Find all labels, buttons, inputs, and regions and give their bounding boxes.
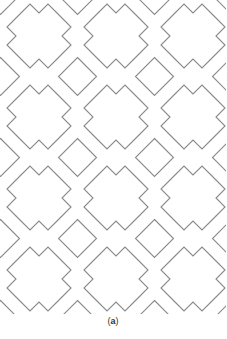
- cross-tile: [7, 85, 71, 149]
- diamond-tile: [136, 0, 174, 15]
- diamond-tile: [0, 220, 20, 258]
- diamond-tile: [213, 301, 227, 315]
- tiles-group: [0, 0, 226, 314]
- tessellation-pattern: [0, 0, 226, 314]
- diamond-tile: [213, 139, 227, 177]
- diamond-tile: [213, 0, 227, 15]
- cross-tile: [161, 85, 225, 149]
- figure-caption: (a): [0, 316, 226, 326]
- diamond-tile: [0, 139, 20, 177]
- diamond-tile: [136, 58, 174, 96]
- diamond-tile: [213, 58, 227, 96]
- caption-close-paren: ): [116, 316, 119, 326]
- cross-tile: [161, 166, 225, 230]
- diamond-tile: [59, 220, 97, 258]
- cross-tile: [84, 247, 148, 311]
- diamond-tile: [59, 58, 97, 96]
- diamond-tile: [213, 220, 227, 258]
- cross-tile: [7, 4, 71, 68]
- cross-tile: [7, 166, 71, 230]
- diamond-tile: [59, 0, 97, 15]
- diamond-tile: [0, 0, 20, 15]
- diamond-tile: [0, 58, 20, 96]
- cross-tile: [84, 85, 148, 149]
- diamond-tile: [136, 139, 174, 177]
- diamond-tile: [0, 301, 20, 315]
- diamond-tile: [59, 301, 97, 315]
- diamond-tile: [136, 301, 174, 315]
- diamond-tile: [59, 139, 97, 177]
- diamond-tile: [136, 220, 174, 258]
- cross-tile: [7, 247, 71, 311]
- cross-tile: [161, 4, 225, 68]
- cross-tile: [84, 166, 148, 230]
- cross-tile: [84, 4, 148, 68]
- cross-tile: [161, 247, 225, 311]
